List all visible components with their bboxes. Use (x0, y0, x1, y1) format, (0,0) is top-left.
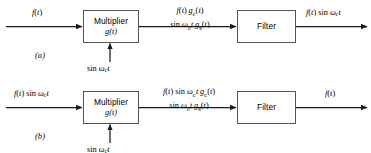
label-a-middle-bottom: sin ωct gs(t) (144, 19, 236, 33)
label-a-carrier: sin ωct (87, 64, 110, 74)
panel-label-b: (b) (35, 131, 45, 141)
label-b-input: f(t) sin ωct (14, 89, 49, 99)
block-multiplier-b: Multiplier g(t) (83, 91, 139, 124)
label-a-input: f(t) (32, 8, 42, 18)
block-filter-a-title: Filter (257, 22, 276, 31)
block-multiplier-a-subtitle: g(t) (105, 27, 117, 36)
block-multiplier-b-subtitle: g(t) (105, 108, 117, 117)
label-b-middle-bottom: sin ωct gs(t) (141, 100, 237, 114)
block-multiplier-b-title: Multiplier (94, 98, 128, 107)
block-multiplier-a: Multiplier g(t) (83, 10, 139, 43)
label-a-output: f(t) sin ωct (306, 8, 341, 18)
label-b-middle: f(t) sin ωct gc(t) sin ωct gs(t) (141, 86, 237, 113)
block-filter-b-title: Filter (257, 103, 276, 112)
label-b-carrier: sin ωct (87, 145, 110, 153)
label-a-middle-top: f(t) gc(t) (144, 5, 236, 19)
label-b-output: f(t) (325, 89, 335, 99)
block-diagram-figure: Multiplier g(t) Filter f(t) sin ωct f(t)… (0, 0, 371, 153)
label-a-middle: f(t) gc(t) sin ωct gs(t) (144, 5, 236, 32)
block-multiplier-a-title: Multiplier (94, 17, 128, 26)
block-filter-a: Filter (237, 10, 296, 43)
panel-label-a: (a) (35, 50, 45, 60)
block-filter-b: Filter (237, 91, 296, 124)
label-b-middle-top: f(t) sin ωct gc(t) (141, 86, 237, 100)
